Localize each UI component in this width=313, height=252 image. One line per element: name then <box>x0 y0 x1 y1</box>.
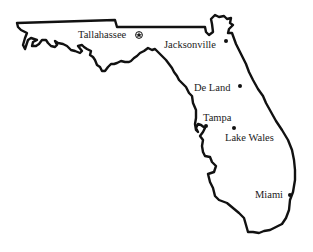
city-miami: Miami <box>255 189 292 200</box>
city-dot-icon <box>204 124 208 128</box>
city-label-miami: Miami <box>255 189 283 200</box>
florida-map: Tallahassee Jacksonville De Land Tampa L… <box>0 0 313 252</box>
city-jacksonville: Jacksonville <box>164 39 228 50</box>
city-dot-icon <box>232 126 236 130</box>
city-dot-icon <box>224 39 228 43</box>
city-label-lake-wales: Lake Wales <box>225 132 274 143</box>
city-label-tampa: Tampa <box>203 112 232 123</box>
city-tampa: Tampa <box>203 112 232 128</box>
city-dot-icon <box>238 84 242 88</box>
city-label-de-land: De Land <box>194 82 231 93</box>
florida-state-outline <box>17 15 295 233</box>
city-dot-icon <box>288 193 292 197</box>
city-label-jacksonville: Jacksonville <box>164 39 216 50</box>
capital-star-icon <box>136 32 143 39</box>
city-label-tallahassee: Tallahassee <box>78 29 127 40</box>
city-lake-wales: Lake Wales <box>225 126 274 143</box>
city-tallahassee: Tallahassee <box>78 29 142 40</box>
city-de-land: De Land <box>194 82 242 93</box>
